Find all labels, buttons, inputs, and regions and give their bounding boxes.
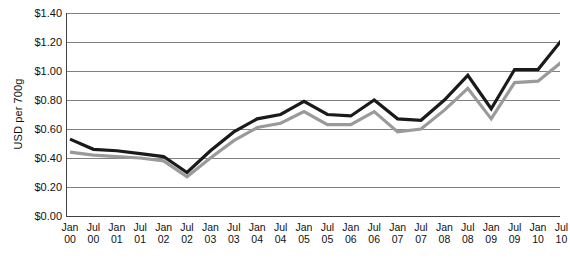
- x-tick-label: Jul03: [221, 222, 247, 245]
- y-tick-label: $1.20: [8, 36, 62, 48]
- x-tick-label: Jul04: [268, 222, 294, 245]
- x-tick-label: Jan10: [525, 222, 551, 245]
- x-tick-label: Jul01: [127, 222, 153, 245]
- x-tick-label: Jan02: [151, 222, 177, 245]
- x-tick-label: Jan04: [244, 222, 270, 245]
- x-tick-label: Jan01: [104, 222, 130, 245]
- series-line-upper-series: [70, 41, 560, 173]
- x-tick-label: Jul08: [455, 222, 481, 245]
- x-tick-label: Jul10: [548, 222, 570, 245]
- x-tick-label: Jul00: [80, 222, 106, 245]
- x-tick-label: Jul07: [408, 222, 434, 245]
- x-tick-label: Jul09: [502, 222, 528, 245]
- x-tick-label: Jul02: [174, 222, 200, 245]
- x-tick-label: Jan09: [478, 222, 504, 245]
- y-tick-label: $0.60: [8, 123, 62, 135]
- x-tick-label: Jan08: [431, 222, 457, 245]
- x-tick-label: Jan05: [291, 222, 317, 245]
- y-tick-label: $0.00: [8, 210, 62, 222]
- series-line-lower-series: [70, 62, 560, 177]
- plot-svg: [66, 0, 560, 240]
- line-chart: USD per 700g $0.00$0.20$0.40$0.60$0.80$1…: [0, 0, 570, 277]
- x-tick-label: Jan06: [338, 222, 364, 245]
- y-tick-label: $1.40: [8, 7, 62, 19]
- x-tick-label: Jan00: [57, 222, 83, 245]
- y-tick-label: $0.20: [8, 181, 62, 193]
- plot-area: [66, 0, 560, 240]
- y-axis-tick-labels: $0.00$0.20$0.40$0.60$0.80$1.00$1.20$1.40: [0, 0, 62, 240]
- x-tick-label: Jul05: [314, 222, 340, 245]
- x-axis-tick-labels: Jan00Jul00Jan01Jul01Jan02Jul02Jan03Jul03…: [0, 222, 570, 262]
- y-tick-label: $0.80: [8, 94, 62, 106]
- x-tick-label: Jan03: [197, 222, 223, 245]
- x-tick-label: Jul06: [361, 222, 387, 245]
- y-tick-label: $1.00: [8, 65, 62, 77]
- y-tick-label: $0.40: [8, 152, 62, 164]
- x-tick-label: Jan07: [385, 222, 411, 245]
